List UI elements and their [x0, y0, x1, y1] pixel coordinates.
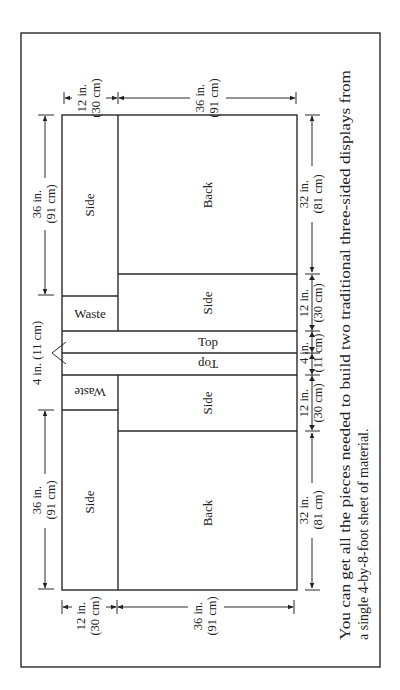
svg-text:36 in.: 36 in. [191, 602, 205, 630]
svg-text:12 in.: 12 in. [74, 602, 88, 630]
dim-left-4: 4 in. (11 cm) [30, 321, 44, 385]
dim-left-upper-36: 36 in. (91 cm) [30, 184, 58, 223]
dim-arrow [309, 425, 315, 430]
svg-text:(30 cm): (30 cm) [311, 283, 325, 322]
piece-side-mid-upper: Side [200, 291, 215, 314]
piece-waste-lower: Waste [74, 385, 106, 400]
svg-text:12 in.: 12 in. [297, 289, 311, 317]
caption: You can get all the pieces needed to bui… [338, 70, 371, 640]
svg-text:36 in.: 36 in. [30, 190, 44, 218]
dim-arrow [309, 325, 315, 330]
dim-right-upper-32: 32 in. (81 cm) [297, 174, 325, 213]
svg-text:(81 cm): (81 cm) [311, 490, 325, 529]
piece-back-lower: Back [200, 499, 215, 526]
caption-line-2: a single 4-by-8-foot sheet of material. [356, 429, 371, 640]
dim-top-12: 12 in. (30 cm) [75, 78, 103, 117]
svg-text:(30 cm): (30 cm) [88, 596, 102, 635]
piece-side-upper: Side [82, 193, 97, 216]
svg-text:4 in.: 4 in. [297, 342, 311, 364]
svg-text:(11 cm): (11 cm) [311, 334, 325, 373]
piece-back-upper: Back [200, 181, 215, 208]
piece-side-mid-lower: Side [200, 391, 215, 414]
dim-right-lower-32: 32 in. (81 cm) [297, 490, 325, 529]
svg-text:(30 cm): (30 cm) [311, 383, 325, 422]
dim-arrow [309, 376, 315, 381]
svg-text:(81 cm): (81 cm) [311, 174, 325, 213]
svg-text:32 in.: 32 in. [297, 496, 311, 524]
dim-bottom-12: 12 in. (30 cm) [74, 596, 102, 635]
dim-right-upper-12: 12 in. (30 cm) [297, 283, 325, 322]
dim-right-4: 4 in. (11 cm) [297, 334, 325, 373]
svg-text:(30 cm): (30 cm) [89, 78, 103, 117]
dim-bottom-36: 36 in. (91 cm) [191, 596, 219, 635]
svg-text:(91 cm): (91 cm) [44, 184, 58, 223]
dim-top-36: 36 in. (91 cm) [193, 78, 221, 117]
dim-right-lower-12: 12 in. (30 cm) [297, 383, 325, 422]
dim-left-lower-36: 36 in. (91 cm) [30, 480, 58, 519]
svg-text:12 in.: 12 in. [75, 84, 89, 112]
svg-text:(91 cm): (91 cm) [207, 78, 221, 117]
svg-text:12 in.: 12 in. [297, 389, 311, 417]
svg-text:32 in.: 32 in. [297, 180, 311, 208]
caption-line-1: You can get all the pieces needed to bui… [338, 70, 353, 640]
dim-arrow [309, 275, 315, 280]
piece-top-2: Top [198, 357, 218, 372]
outer-frame [21, 33, 380, 667]
piece-waste-upper: Waste [74, 306, 106, 321]
svg-text:36 in.: 36 in. [193, 84, 207, 112]
svg-text:(91 cm): (91 cm) [44, 480, 58, 519]
cutting-diagram: Side Back Waste Side Top Top Waste Side … [0, 0, 400, 690]
piece-side-lower: Side [82, 490, 97, 513]
piece-top-1: Top [198, 334, 218, 349]
svg-text:36 in.: 36 in. [30, 486, 44, 514]
svg-text:(91 cm): (91 cm) [205, 596, 219, 635]
